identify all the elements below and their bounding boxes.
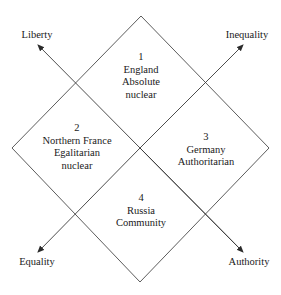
quadrant-1-england: 1 England Absolute nuclear xyxy=(122,51,160,101)
quadrant-4-russia: 4 Russia Community xyxy=(116,192,166,230)
family-types-diagram: Liberty Inequality Equality Authority 1 … xyxy=(0,0,281,295)
quadrant-type: Absolute xyxy=(122,76,160,89)
quadrant-region: Germany xyxy=(178,144,235,157)
quadrant-type: Egalitarian xyxy=(42,147,111,160)
quadrant-number: 4 xyxy=(116,192,166,205)
quadrant-type: nuclear xyxy=(42,160,111,173)
quadrant-region: Northern France xyxy=(42,135,111,148)
axis-label-inequality: Inequality xyxy=(226,29,269,42)
quadrant-type: Authoritarian xyxy=(178,156,235,169)
quadrant-region: England xyxy=(122,64,160,77)
axis-label-authority: Authority xyxy=(229,256,270,269)
quadrant-number: 3 xyxy=(178,131,235,144)
axis-label-liberty: Liberty xyxy=(22,29,53,42)
quadrant-2-northern-france: 2 Northern France Egalitarian nuclear xyxy=(42,122,111,172)
quadrant-type: Community xyxy=(116,217,166,230)
axis-label-equality: Equality xyxy=(19,256,55,269)
quadrant-number: 1 xyxy=(122,51,160,64)
quadrant-type: nuclear xyxy=(122,89,160,102)
quadrant-region: Russia xyxy=(116,205,166,218)
quadrant-number: 2 xyxy=(42,122,111,135)
quadrant-3-germany: 3 Germany Authoritarian xyxy=(178,131,235,169)
